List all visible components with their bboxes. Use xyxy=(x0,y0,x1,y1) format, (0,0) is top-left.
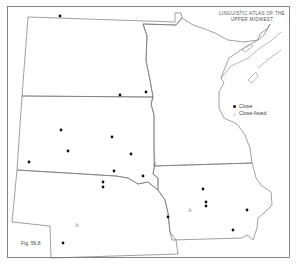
map-canvas xyxy=(0,0,298,266)
figure-label: Fig. 56.8 xyxy=(21,240,40,246)
legend: Close △ Close-fisted xyxy=(233,103,266,117)
close-dot xyxy=(130,153,133,156)
close-dot xyxy=(102,181,105,184)
wisconsin-shore xyxy=(258,50,281,68)
map-frame xyxy=(8,7,290,258)
close-fisted-triangle xyxy=(189,208,192,211)
close-dot xyxy=(232,229,235,232)
close-fisted-points xyxy=(76,208,192,226)
state-boundaries xyxy=(12,13,281,258)
close-dot xyxy=(119,94,122,97)
map-title: LINGUISTIC ATLAS OF THE UPPER MIDWEST xyxy=(207,11,297,23)
close-fisted-triangle xyxy=(76,223,79,226)
close-dot xyxy=(145,91,148,94)
close-dot xyxy=(60,129,63,132)
dot-icon xyxy=(233,105,236,108)
close-dot xyxy=(205,205,208,208)
close-dot xyxy=(142,175,145,178)
close-dot xyxy=(59,15,62,18)
close-dot xyxy=(205,201,208,204)
minnesota-outline xyxy=(143,18,270,166)
close-dot xyxy=(202,188,205,191)
title-line-2: UPPER MIDWEST xyxy=(207,17,297,23)
north-dakota-outline xyxy=(22,13,182,97)
legend-label-close: Close xyxy=(239,103,252,110)
legend-label-close-fisted: Close-fisted xyxy=(239,110,266,117)
close-dot xyxy=(111,136,114,139)
close-dot xyxy=(113,170,116,173)
close-dot xyxy=(246,209,249,212)
legend-item-close-fisted: △ Close-fisted xyxy=(233,110,266,117)
south-dakota-outline xyxy=(17,96,158,190)
close-dot xyxy=(28,161,31,164)
close-dot xyxy=(67,150,70,153)
close-dot xyxy=(102,186,105,189)
close-dot xyxy=(62,242,65,245)
triangle-icon: △ xyxy=(233,110,236,117)
close-dot xyxy=(167,216,170,219)
close-points xyxy=(28,15,249,245)
legend-item-close: Close xyxy=(233,103,266,110)
iowa-outline xyxy=(153,163,272,240)
lake-superior-shore xyxy=(221,32,281,78)
keweenaw xyxy=(248,72,258,83)
